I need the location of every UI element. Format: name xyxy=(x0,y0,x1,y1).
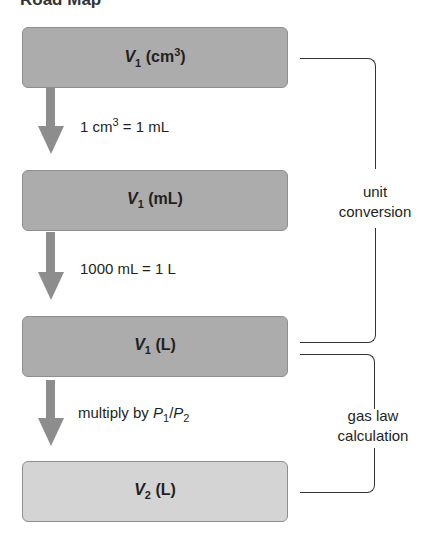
step-ml-to-l: 1000 mL = 1 L xyxy=(80,260,176,277)
var: V xyxy=(127,190,138,207)
bracket-line xyxy=(300,354,375,409)
box-v2-l: V2 (L) xyxy=(22,461,288,522)
box-v1-l: V1 (L) xyxy=(22,316,288,377)
bracket-line xyxy=(300,228,376,343)
label-gas-law-calculation: gas lawcalculation xyxy=(318,406,428,446)
bracket-line xyxy=(300,448,375,493)
var: V xyxy=(134,336,145,353)
line: conversion xyxy=(320,202,430,222)
sub: 2 xyxy=(183,412,189,424)
arrow-down-icon xyxy=(38,232,64,302)
arrow-down-icon xyxy=(38,380,64,446)
unit: (L) xyxy=(151,336,176,353)
line: calculation xyxy=(318,426,428,446)
text: = 1 mL xyxy=(119,118,169,135)
unit: (cm xyxy=(141,49,174,66)
line: gas law xyxy=(318,406,428,426)
text: 1 cm xyxy=(80,118,113,135)
close: ) xyxy=(180,49,185,66)
box-v1-ml: V1 (mL) xyxy=(22,170,288,231)
step-multiply: multiply by P1/P2 xyxy=(78,404,189,424)
text: multiply by xyxy=(78,404,153,421)
var: V xyxy=(134,481,145,498)
p: P xyxy=(153,404,163,421)
box-v1-cm3: V1 (cm3) xyxy=(22,27,288,88)
diagram-title: Road Map xyxy=(20,0,101,10)
unit: (mL) xyxy=(144,190,183,207)
p: P xyxy=(173,404,183,421)
line: unit xyxy=(320,182,430,202)
step-cm3-to-ml: 1 cm3 = 1 mL xyxy=(80,116,169,135)
var: V xyxy=(124,49,135,66)
unit: (L) xyxy=(151,481,176,498)
label-unit-conversion: unitconversion xyxy=(320,182,430,222)
bracket-line xyxy=(300,58,376,169)
arrow-down-icon xyxy=(38,88,64,154)
